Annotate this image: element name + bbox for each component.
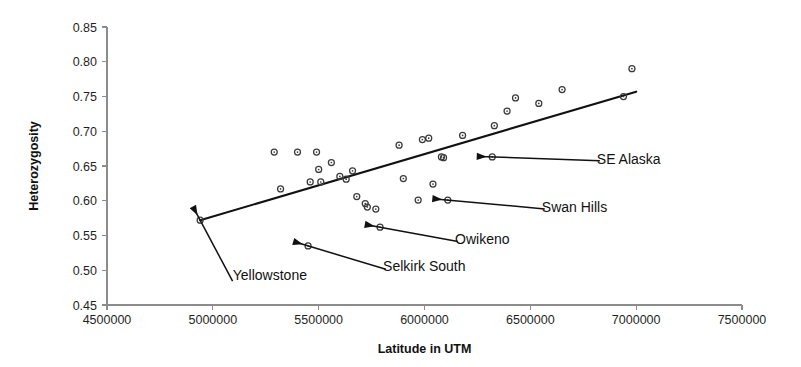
data-point <box>513 95 519 101</box>
y-tick-label: 0.70 <box>73 125 97 139</box>
data-point-center <box>515 97 517 99</box>
data-point <box>295 149 301 155</box>
annotation-label: Swan Hills <box>542 199 607 215</box>
y-tick-label: 0.85 <box>73 21 97 35</box>
data-point <box>271 149 277 155</box>
data-point <box>460 132 466 138</box>
chart-container: 0.450.500.550.600.650.700.750.800.854500… <box>0 0 801 367</box>
x-tick-label: 6000000 <box>400 313 449 327</box>
y-tick-label: 0.65 <box>73 160 97 174</box>
data-point <box>373 206 379 212</box>
data-point-center <box>538 103 540 105</box>
data-point <box>316 166 322 172</box>
x-tick-label: 5000000 <box>188 313 237 327</box>
y-tick-label: 0.80 <box>73 55 97 69</box>
data-point <box>307 179 313 185</box>
data-point <box>504 108 510 114</box>
annotation-label: Selkirk South <box>383 258 465 274</box>
annotation-arrowhead <box>364 221 374 228</box>
data-point-center <box>561 89 563 91</box>
annotation-leader-line <box>480 157 600 161</box>
x-tick-label: 7500000 <box>718 313 767 327</box>
data-point <box>536 100 542 106</box>
data-point <box>278 186 284 192</box>
scatter-plot: 0.450.500.550.600.650.700.750.800.854500… <box>0 0 801 367</box>
data-point <box>426 135 432 141</box>
data-point <box>314 149 320 155</box>
data-point <box>419 137 425 143</box>
data-point <box>629 66 635 72</box>
annotation-label: SE Alaska <box>597 151 661 167</box>
data-point-center <box>375 208 377 210</box>
data-point <box>491 123 497 129</box>
annotation-label: Owikeno <box>455 231 510 247</box>
data-point-center <box>339 176 341 178</box>
data-point <box>400 176 406 182</box>
data-point-center <box>280 188 282 190</box>
data-point-center <box>356 196 358 198</box>
data-point-center <box>352 170 354 172</box>
data-point-center <box>462 135 464 137</box>
y-tick-label: 0.50 <box>73 264 97 278</box>
data-point-center <box>345 178 347 180</box>
data-point-center <box>309 181 311 183</box>
data-point-center <box>318 169 320 171</box>
annotation-arrowhead <box>292 238 303 245</box>
data-point-center <box>631 68 633 70</box>
data-point-center <box>428 137 430 139</box>
annotation: Swan Hills <box>432 195 607 215</box>
x-tick-label: 5500000 <box>294 313 343 327</box>
data-point-center <box>273 151 275 153</box>
data-point-center <box>398 144 400 146</box>
data-point-center <box>494 125 496 127</box>
x-tick-label: 7000000 <box>612 313 661 327</box>
data-point-center <box>367 206 369 208</box>
data-point-center <box>297 151 299 153</box>
data-point <box>415 197 421 203</box>
data-point <box>328 160 334 166</box>
annotation-leader-line <box>296 242 386 269</box>
data-point-center <box>417 199 419 201</box>
data-point-center <box>331 162 333 164</box>
data-point-center <box>443 157 445 159</box>
annotation-arrowhead <box>477 153 487 160</box>
data-point-center <box>320 181 322 183</box>
x-axis-title: Latitude in UTM <box>378 342 472 356</box>
y-tick-label: 0.75 <box>73 90 97 104</box>
x-tick-label: 4500000 <box>83 313 132 327</box>
annotation: Yellowstone <box>190 205 308 283</box>
y-tick-label: 0.55 <box>73 229 97 243</box>
annotation-arrowhead <box>432 195 442 202</box>
y-tick-label: 0.45 <box>73 299 97 313</box>
data-point-center <box>506 110 508 112</box>
data-point-center <box>316 151 318 153</box>
annotation-label: Yellowstone <box>233 267 307 283</box>
data-point-center <box>422 139 424 141</box>
annotation: Selkirk South <box>292 238 465 274</box>
annotation-leader-line <box>435 199 544 209</box>
annotation-leader-line <box>194 209 232 281</box>
annotation: SE Alaska <box>477 151 661 167</box>
data-point <box>354 194 360 200</box>
annotation-arrowhead <box>190 205 198 216</box>
data-point <box>430 181 436 187</box>
annotation: Owikeno <box>364 221 510 247</box>
data-point <box>396 142 402 148</box>
y-tick-label: 0.60 <box>73 194 97 208</box>
data-point-center <box>432 183 434 185</box>
data-point-center <box>623 96 625 98</box>
x-tick-label: 6500000 <box>506 313 555 327</box>
annotations-layer: SE AlaskaSwan HillsOwikenoSelkirk SouthY… <box>190 151 661 282</box>
annotation-leader-line <box>368 225 458 242</box>
y-axis-title: Heterozygosity <box>27 121 41 211</box>
axis-ticks-layer: 0.450.500.550.600.650.700.750.800.854500… <box>73 21 767 328</box>
data-point-center <box>402 178 404 180</box>
data-point <box>559 87 565 93</box>
data-point <box>350 168 356 174</box>
